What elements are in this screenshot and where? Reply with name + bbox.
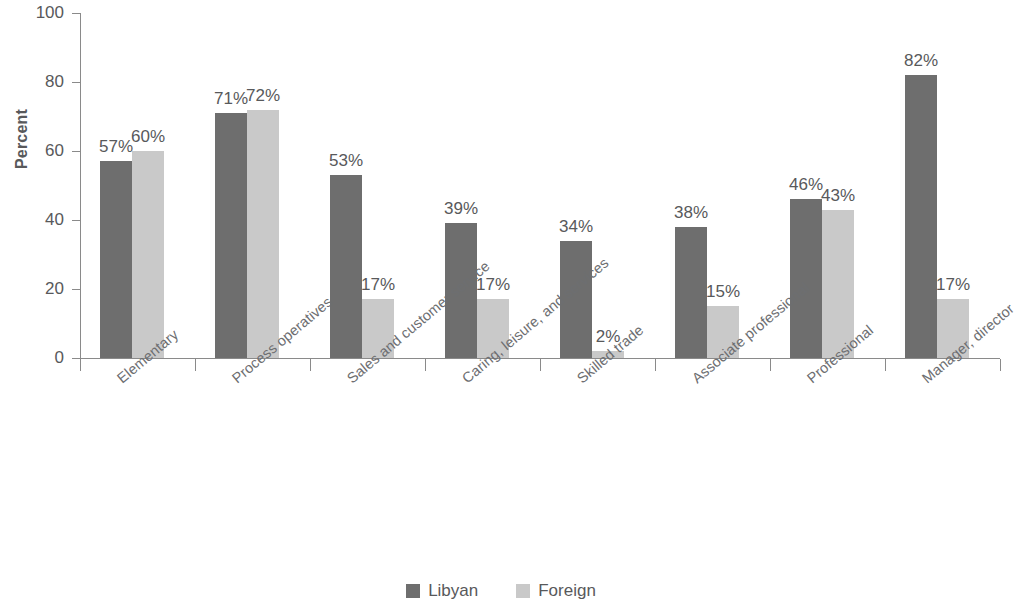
y-axis-line [80,13,81,359]
bar-libyan [100,161,132,358]
y-axis-tick-label: 20 [0,280,64,297]
legend-swatch-icon [406,584,420,598]
bar-libyan [905,75,937,358]
bar-value-label: 53% [321,152,371,169]
x-axis-tick [770,359,771,371]
bar-value-label: 17% [928,276,978,293]
bar-value-label: 60% [123,128,173,145]
y-axis-tick-label: 80 [0,73,64,90]
x-axis-tick [885,359,886,371]
legend-label: Foreign [538,582,596,599]
x-axis-tick [655,359,656,371]
bar-value-label: 38% [666,204,716,221]
bar-value-label: 72% [238,87,288,104]
bar-value-label: 39% [436,200,486,217]
bar-foreign [132,151,164,358]
legend: LibyanForeign [0,582,1002,599]
x-axis-tick [540,359,541,371]
y-axis-tick [72,82,81,83]
legend-item: Foreign [516,582,596,599]
bar-value-label: 15% [698,283,748,300]
bar-libyan [330,175,362,358]
legend-swatch-icon [516,584,530,598]
bar-libyan [215,113,247,358]
y-axis-tick [72,13,81,14]
bar-value-label: 34% [551,218,601,235]
y-axis-tick [72,151,81,152]
y-axis-tick [72,220,81,221]
bar-value-label: 43% [813,187,863,204]
x-axis-tick [195,359,196,371]
x-axis-tick [1000,359,1001,371]
y-axis-tick-label: 40 [0,211,64,228]
x-axis-tick [425,359,426,371]
x-axis-tick [80,359,81,371]
y-axis-tick-label: 60 [0,142,64,159]
bar-foreign [247,110,279,358]
y-axis-tick-label: 0 [0,349,64,366]
y-axis-tick-label: 100 [0,4,64,21]
y-axis-tick [72,289,81,290]
bar-value-label: 17% [353,276,403,293]
x-axis-tick [310,359,311,371]
bar-libyan [790,199,822,358]
legend-item: Libyan [406,582,478,599]
legend-label: Libyan [428,582,478,599]
bar-value-label: 82% [896,52,946,69]
y-axis-title: Percent [13,79,31,199]
